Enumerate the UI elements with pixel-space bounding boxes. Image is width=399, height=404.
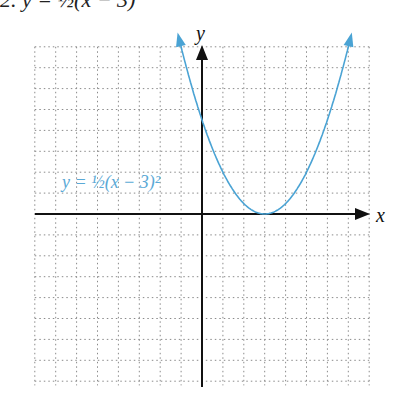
- curve-arrow-left-icon: [176, 33, 186, 48]
- x-axis-arrow-icon: [355, 208, 370, 220]
- equation-label: y = ½(x − 3)²: [62, 172, 160, 193]
- x-axis-label: x: [376, 204, 385, 227]
- curve-arrow-right-icon: [344, 33, 354, 48]
- y-axis-label: y: [196, 22, 205, 45]
- graph: [0, 0, 399, 404]
- y-axis: [196, 45, 208, 387]
